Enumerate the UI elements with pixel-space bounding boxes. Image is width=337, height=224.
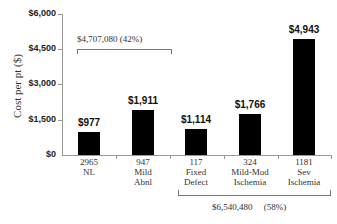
y-tick: $1,500	[0, 114, 56, 124]
category-name: NL	[62, 167, 116, 177]
count: 324	[223, 157, 277, 167]
category-name: Mild-Mod	[223, 167, 277, 177]
y-tick: $3,000	[0, 78, 56, 88]
value-label: $4,943	[279, 24, 329, 35]
x-axis	[62, 155, 332, 156]
y-tick: $0	[0, 149, 56, 159]
category-label: 1181 Sev Ischemia	[277, 157, 331, 187]
bar-fixed-defect	[185, 129, 207, 155]
annotation-bottom: $6,540,480 (58%)	[212, 202, 286, 212]
category-label: 324 Mild-Mod Ischemia	[223, 157, 277, 187]
category-name: Defect	[169, 177, 223, 187]
y-tick: $4,500	[0, 43, 56, 53]
category-name: Sev	[277, 167, 331, 177]
category-name: Abnl	[116, 177, 170, 187]
bracket-bottom	[178, 190, 331, 196]
category-name: Mild	[116, 167, 170, 177]
annotation-top: $4,707,080 (42%)	[77, 34, 142, 44]
bar-mild-mod-ischemia	[239, 114, 261, 155]
value-label: $1,911	[118, 95, 168, 106]
category-name: Ischemia	[277, 177, 331, 187]
category-label: 2965 NL	[62, 157, 116, 177]
bar-nl	[78, 132, 100, 155]
value-label: $1,766	[225, 99, 275, 110]
value-label: $1,114	[171, 114, 221, 125]
bracket-top	[77, 49, 172, 54]
count: 947	[116, 157, 170, 167]
category-name: Fixed	[169, 167, 223, 177]
category-label: 947 Mild Abnl	[116, 157, 170, 187]
bar-mild-abnl	[132, 110, 154, 155]
bar-sev-ischemia	[293, 39, 315, 155]
x-tick-mark	[331, 155, 332, 159]
y-tick: $6,000	[0, 8, 56, 18]
category-label: 117 Fixed Defect	[169, 157, 223, 187]
count: 1181	[277, 157, 331, 167]
value-label: $977	[64, 117, 114, 128]
count: 117	[169, 157, 223, 167]
count: 2965	[62, 157, 116, 167]
category-name: Ischemia	[223, 177, 277, 187]
y-axis	[62, 14, 63, 155]
